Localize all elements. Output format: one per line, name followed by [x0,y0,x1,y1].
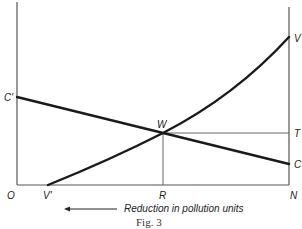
label-c: C [294,159,302,170]
label-v-prime: V' [43,190,53,201]
label-w: W [157,119,168,130]
label-t: T [294,128,301,139]
line-c-prime-c [17,97,289,164]
figure-caption: Fig. 3 [136,216,162,228]
curve-v-prime-v [48,37,289,185]
label-r: R [159,190,166,201]
pollution-diagram: C' O V' R N W V T C Reduction in polluti… [0,0,302,229]
x-axis-label: Reduction in pollution units [124,203,244,214]
left-arrow-icon [64,207,117,212]
label-v: V [294,33,302,44]
label-origin: O [7,190,15,201]
label-n: N [290,190,298,201]
label-c-prime: C' [4,92,14,103]
